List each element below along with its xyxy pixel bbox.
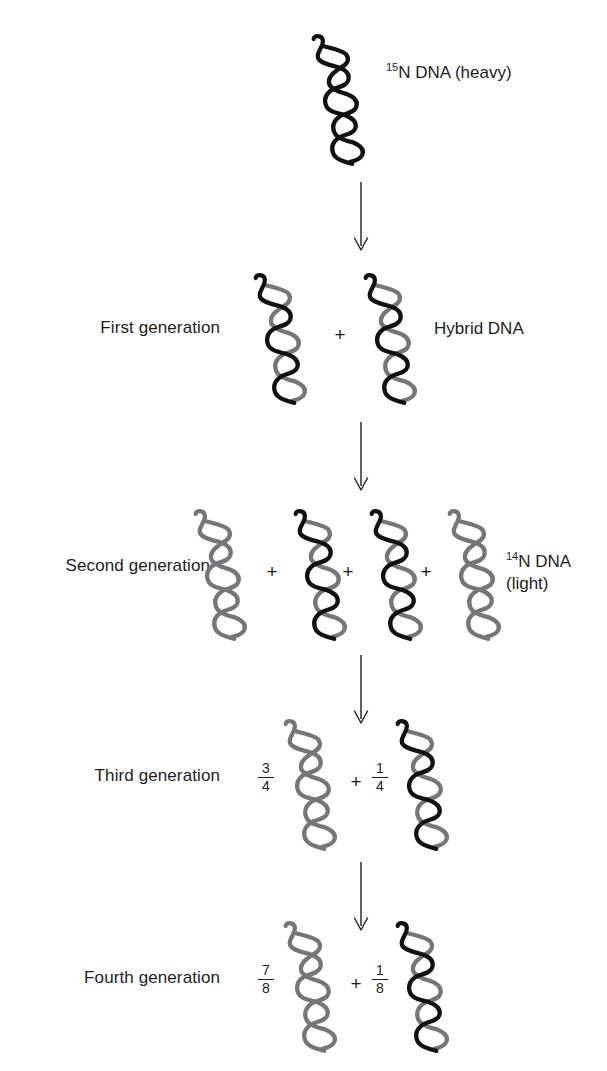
plus-sign: + bbox=[418, 562, 434, 581]
dna-helix-heavy-heavy bbox=[300, 33, 374, 175]
label-fourth-generation: Fourth generation bbox=[20, 968, 220, 988]
plus-sign: + bbox=[348, 772, 364, 791]
label-first-generation: First generation bbox=[20, 318, 220, 338]
label-second-generation: Second generation bbox=[10, 556, 210, 576]
dna-helix-light-1 bbox=[182, 508, 256, 650]
dna-helix-light-3 bbox=[272, 718, 346, 860]
superscript-15: 15 bbox=[386, 61, 398, 73]
label-third-generation: Third generation bbox=[20, 766, 220, 786]
plus-sign: + bbox=[348, 974, 364, 993]
dna-helix-hybrid-2 bbox=[352, 272, 426, 414]
arrow-down-2 bbox=[348, 422, 374, 496]
plus-sign: + bbox=[340, 562, 356, 581]
label-14n-dna-light: 14N DNA (light) bbox=[506, 551, 571, 595]
label-15n-dna-heavy-text: N DNA (heavy) bbox=[398, 63, 511, 82]
dna-helix-hybrid-6 bbox=[384, 920, 458, 1062]
plus-sign: + bbox=[264, 562, 280, 581]
arrow-down-3 bbox=[348, 655, 374, 729]
arrow-down-1 bbox=[348, 182, 374, 256]
label-14n-dna-line1: 14N DNA bbox=[506, 551, 571, 573]
label-hybrid-dna: Hybrid DNA bbox=[434, 318, 524, 340]
superscript-14: 14 bbox=[506, 550, 518, 562]
dna-helix-hybrid-1 bbox=[242, 272, 316, 414]
dna-helix-hybrid-5 bbox=[384, 718, 458, 860]
diagram-canvas: 15N DNA (heavy) First generation + Hybri… bbox=[0, 0, 607, 1071]
label-15n-dna-heavy: 15N DNA (heavy) bbox=[386, 62, 512, 84]
plus-sign: + bbox=[332, 325, 348, 344]
label-14n-dna-text: N DNA bbox=[518, 552, 571, 571]
label-light-line2: (light) bbox=[506, 573, 571, 595]
dna-helix-light-2 bbox=[436, 508, 510, 650]
dna-helix-light-4 bbox=[272, 920, 346, 1062]
arrow-down-4 bbox=[348, 862, 374, 936]
